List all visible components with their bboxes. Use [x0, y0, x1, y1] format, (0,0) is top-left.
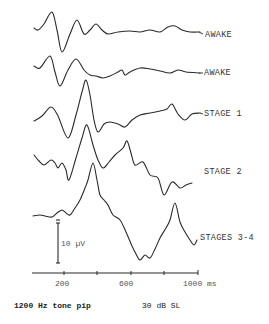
x-tick-200: 200: [55, 280, 69, 288]
trace-label-stages-3-4: STAGES 3-4: [200, 234, 254, 243]
level-caption: 30 dB SL: [142, 302, 180, 310]
trace-awake-1: [34, 12, 200, 52]
scale-bar: [56, 220, 60, 263]
trace-awake-2: [34, 56, 200, 86]
trace-stage-1-3: [34, 80, 200, 138]
stimulus-caption: 1200 Hz tone pip: [14, 302, 91, 310]
scale-bar-label: 10 µV: [61, 240, 85, 248]
x-axis: [32, 270, 198, 275]
evoked-potential-chart: [0, 0, 269, 324]
x-tick-1000: 1000 ms: [183, 280, 217, 288]
trace-label-stage-1: STAGE 1: [204, 110, 242, 119]
x-tick-600: 600: [119, 280, 133, 288]
leader-stage1: [200, 113, 203, 114]
trace-label-awake-1: AWAKE: [205, 31, 232, 40]
leader-awake-1: [199, 32, 203, 34]
trace-stage-2-4: [34, 125, 192, 195]
trace-label-stage-2: STAGE 2: [204, 168, 242, 177]
trace-label-awake-2: AWAKE: [204, 69, 231, 78]
